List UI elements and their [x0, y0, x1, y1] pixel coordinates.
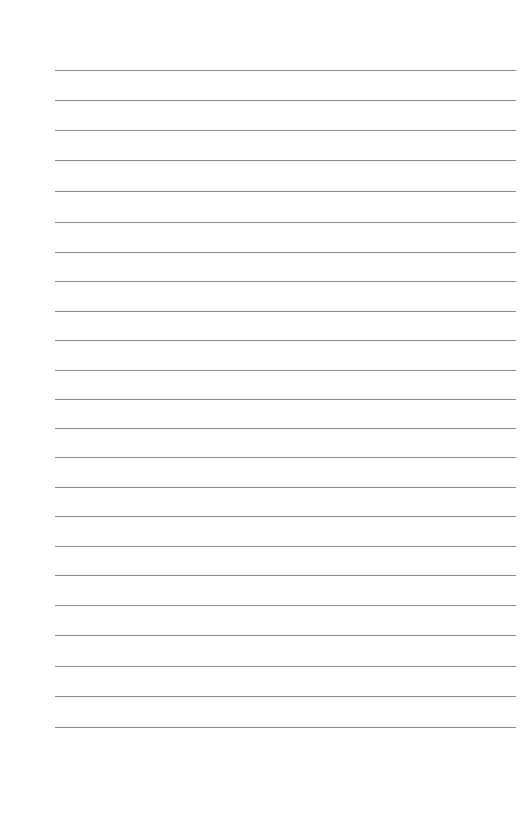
- ruled-line: [55, 727, 516, 728]
- ruled-line: [55, 281, 516, 282]
- ruled-line: [55, 666, 516, 667]
- ruled-line: [55, 70, 516, 71]
- ruled-line: [55, 457, 516, 458]
- ruled-line: [55, 160, 516, 161]
- ruled-line: [55, 428, 516, 429]
- ruled-line: [55, 370, 516, 371]
- ruled-line: [55, 100, 516, 101]
- ruled-line: [55, 311, 516, 312]
- ruled-line: [55, 487, 516, 488]
- ruled-line: [55, 546, 516, 547]
- ruled-line: [55, 696, 516, 697]
- ruled-line: [55, 516, 516, 517]
- ruled-line: [55, 252, 516, 253]
- lined-paper-page: [0, 0, 529, 832]
- ruled-line: [55, 191, 516, 192]
- ruled-line: [55, 575, 516, 576]
- ruled-line: [55, 605, 516, 606]
- ruled-line: [55, 635, 516, 636]
- ruled-line: [55, 399, 516, 400]
- ruled-line: [55, 130, 516, 131]
- ruled-line: [55, 340, 516, 341]
- ruled-line: [55, 222, 516, 223]
